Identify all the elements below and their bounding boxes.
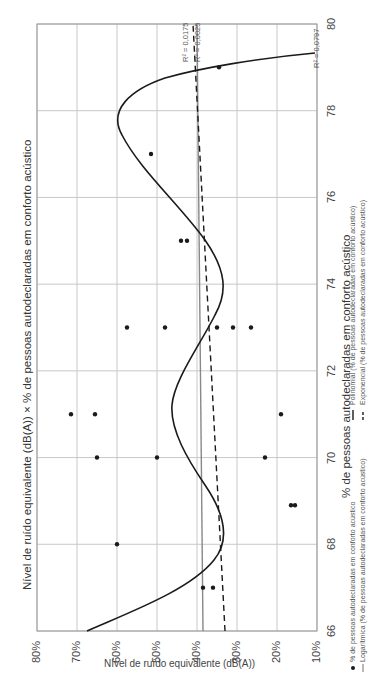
data-point bbox=[149, 152, 153, 156]
data-point bbox=[293, 503, 297, 507]
y-tick-label: 80% bbox=[30, 641, 42, 663]
data-point bbox=[263, 455, 267, 459]
logarithmic-trendline bbox=[197, 24, 203, 631]
legend-points-label: % de pessoas autodeclaradas em conforto … bbox=[349, 502, 356, 662]
grid-lines bbox=[37, 24, 317, 631]
data-point bbox=[93, 412, 97, 416]
data-points bbox=[69, 65, 297, 590]
data-point bbox=[115, 542, 119, 546]
data-point bbox=[279, 412, 283, 416]
legend-poly-label: Polinomial (% de pessoas autodeclaradas … bbox=[349, 206, 356, 405]
x-tick-label: 76 bbox=[325, 191, 337, 203]
legend-exp-label: Exponencial (% de pessoas autodeclaradas… bbox=[359, 200, 366, 405]
plot-frame bbox=[37, 24, 317, 631]
r2-exponential-label: R² = 0,0175 bbox=[181, 23, 190, 62]
legend-log-label: Logarítmica (% de pessoas autodeclaradas… bbox=[359, 459, 366, 663]
x-tick-label: 78 bbox=[325, 104, 337, 116]
y-tick-label: 70% bbox=[70, 641, 82, 663]
data-point bbox=[217, 65, 221, 69]
y-axis-title: Nível de ruído equivalente (dB(A)) bbox=[104, 658, 255, 669]
data-point bbox=[231, 325, 235, 329]
y-tick-label: 10% bbox=[310, 641, 322, 663]
data-point bbox=[201, 585, 205, 589]
y-tick-label: 20% bbox=[270, 641, 282, 663]
data-point bbox=[155, 455, 159, 459]
data-point bbox=[179, 239, 183, 243]
x-tick-label: 68 bbox=[325, 538, 337, 550]
data-point bbox=[95, 455, 99, 459]
legend-dot-icon bbox=[351, 666, 355, 670]
data-point bbox=[211, 585, 215, 589]
x-tick-label: 66 bbox=[325, 625, 337, 637]
r2-polynomial-label: R² = 0,0797 bbox=[312, 29, 321, 68]
data-point bbox=[249, 325, 253, 329]
data-point bbox=[163, 325, 167, 329]
data-point bbox=[289, 503, 293, 507]
data-point bbox=[125, 325, 129, 329]
chart-canvas bbox=[0, 0, 392, 686]
x-tick-label: 80 bbox=[325, 18, 337, 30]
x-tick-label: 70 bbox=[325, 451, 337, 463]
x-tick-label: 72 bbox=[325, 365, 337, 377]
data-point bbox=[69, 412, 73, 416]
data-point bbox=[215, 325, 219, 329]
r2-logarithmic-label: R² = 0,0025 bbox=[193, 23, 202, 62]
chart-title: Nível de ruído equivalente (dB(A)) × % d… bbox=[21, 140, 33, 590]
x-tick-label: 74 bbox=[325, 278, 337, 290]
data-point bbox=[185, 239, 189, 243]
